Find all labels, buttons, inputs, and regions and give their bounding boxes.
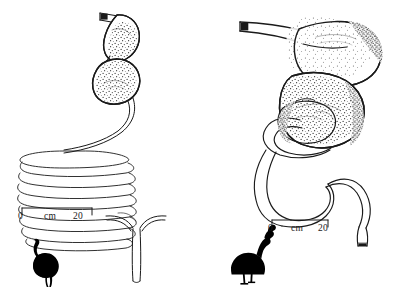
cassowary-scale-unit-label: cm xyxy=(291,224,303,234)
emu-scale-unit-label: cm xyxy=(44,212,56,222)
emu-scale-right-label: 20 xyxy=(73,212,83,222)
cassowary-scale-right-label: 20 xyxy=(318,224,328,234)
digestive-tract-figure xyxy=(0,0,403,292)
emu-scale-left-label: 0 xyxy=(18,212,23,222)
figure-root: 0 cm 20 0 cm 20 xyxy=(0,0,403,292)
cassowary-scale-left-label: 0 xyxy=(268,224,273,234)
